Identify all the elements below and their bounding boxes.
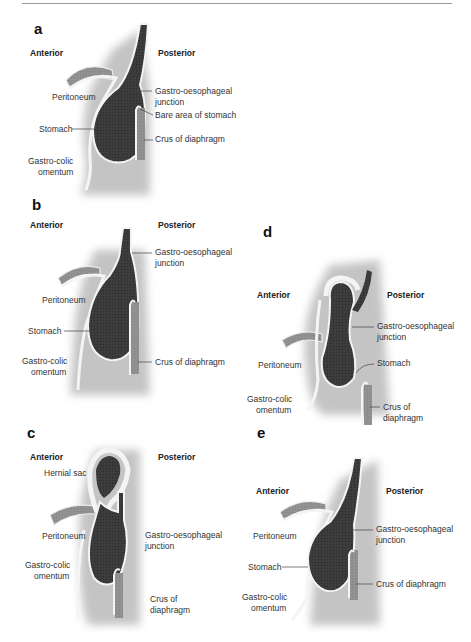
panel-b: b Anterior Posterior Gastro-oesophageal … bbox=[0, 190, 240, 400]
gastro-colic-label: Gastro-colic omentum bbox=[247, 394, 292, 416]
posterior-label: Posterior bbox=[386, 486, 423, 496]
panel-a: a Anterior Posterior Peritoneum Stomach … bbox=[0, 0, 240, 200]
goj-label: Gastro-oesophageal junction bbox=[155, 86, 232, 108]
anterior-label: Anterior bbox=[257, 290, 290, 300]
peritoneum-label: Peritoneum bbox=[42, 531, 85, 542]
goj-label: Gastro-oesophageal junction bbox=[155, 247, 232, 269]
panel-label: d bbox=[263, 223, 272, 240]
goj-label: Gastro-oesophageal junction bbox=[377, 321, 454, 343]
crus-label: Crus of diaphragm bbox=[155, 357, 225, 368]
gastro-colic-label: Gastro-colic omentum bbox=[22, 356, 67, 378]
gastro-colic-label: Gastro-colic omentum bbox=[28, 156, 73, 178]
panel-e: e Anterior Posterior Gastro-oesophageal … bbox=[230, 420, 471, 642]
panel-d: d Anterior Posterior Gastro-oesophageal … bbox=[230, 210, 471, 430]
crus-label: Crus of diaphragm bbox=[150, 594, 190, 616]
gastro-colic-label: Gastro-colic omentum bbox=[242, 592, 287, 614]
goj-label: Gastro-oesophageal junction bbox=[145, 530, 222, 552]
panel-c: c Anterior Posterior Hernial sac Periton… bbox=[0, 410, 240, 642]
gastro-colic-label: Gastro-colic omentum bbox=[25, 560, 70, 582]
posterior-label: Posterior bbox=[158, 220, 195, 230]
peritoneum-label: Peritoneum bbox=[42, 295, 85, 306]
stomach-label: Stomach bbox=[248, 562, 282, 573]
crus-label: Crus of diaphragm bbox=[376, 579, 446, 590]
stomach-label: Stomach bbox=[377, 358, 411, 369]
panel-label: e bbox=[257, 424, 265, 441]
crus-label: Crus of diaphragm bbox=[155, 134, 225, 145]
panel-c-illustration bbox=[0, 410, 240, 642]
anterior-label: Anterior bbox=[30, 452, 63, 462]
panel-label: b bbox=[32, 196, 41, 213]
anterior-label: Anterior bbox=[30, 220, 63, 230]
goj-label: Gastro-oesophageal junction bbox=[376, 524, 453, 546]
anterior-label: Anterior bbox=[256, 486, 289, 496]
peritoneum-label: Peritoneum bbox=[258, 360, 301, 371]
bare-area-label: Bare area of stomach bbox=[155, 110, 236, 121]
panel-label: c bbox=[27, 424, 35, 441]
peritoneum-label: Peritoneum bbox=[253, 531, 296, 542]
stomach-label: Stomach bbox=[28, 326, 62, 337]
posterior-label: Posterior bbox=[158, 452, 195, 462]
hernial-sac-label: Hernial sac bbox=[44, 468, 87, 479]
posterior-label: Posterior bbox=[387, 290, 424, 300]
